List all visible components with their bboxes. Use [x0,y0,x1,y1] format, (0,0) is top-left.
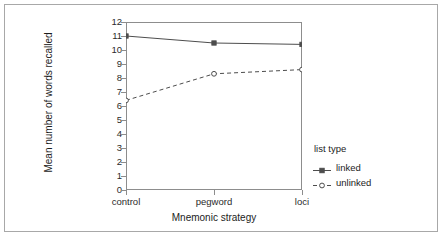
figure-root: 0123456789101112 Mean number of words re… [0,0,447,242]
data-point-marker-linked [212,41,216,45]
legend-item-linked[interactable]: linked [312,160,432,175]
x-axis-tick-mark [126,190,127,195]
y-axis-title: Mean number of words recalled [43,18,54,188]
plot-series-layer [126,22,302,190]
chart-legend: list type linkedunlinked [312,143,432,190]
data-point-marker-unlinked [126,98,128,103]
data-point-marker-linked [126,34,128,38]
x-axis-title: Mnemonic strategy [126,212,302,223]
x-axis-tick-label: control [76,196,176,207]
data-point-marker-linked [300,42,302,46]
x-axis-tick-labels: controlpegwordloci [76,196,352,210]
legend-swatch-linked-icon [312,162,332,173]
legend-label: linked [336,162,361,173]
legend-title: list type [312,143,432,154]
data-point-marker-unlinked [212,71,217,76]
legend-entries: linkedunlinked [312,160,432,190]
x-axis-tick-mark [302,190,303,195]
legend-item-unlinked[interactable]: unlinked [312,175,432,190]
data-point-marker-unlinked [300,67,302,72]
line-chart: 0123456789101112 Mean number of words re… [0,0,447,242]
x-axis-tick-label: loci [252,196,352,207]
x-axis-tick-mark [214,190,215,195]
y-axis-tick-labels: 0123456789101112 [104,22,122,190]
legend-label: unlinked [336,177,371,188]
legend-swatch-unlinked-icon [312,177,332,188]
x-axis-tick-label: pegword [164,196,264,207]
